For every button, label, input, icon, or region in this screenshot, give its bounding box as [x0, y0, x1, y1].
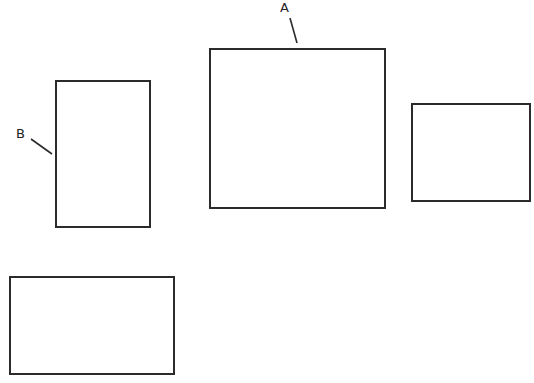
label-a: A — [280, 1, 289, 14]
rectangle-a — [209, 48, 386, 209]
leader-line-b — [31, 139, 52, 154]
diagram-canvas: A B — [0, 0, 534, 383]
label-b: B — [16, 127, 25, 140]
rectangle-b — [55, 80, 151, 228]
rectangle-right — [411, 103, 531, 202]
rectangle-bottom-left — [9, 276, 175, 375]
leader-line-a — [290, 18, 297, 43]
